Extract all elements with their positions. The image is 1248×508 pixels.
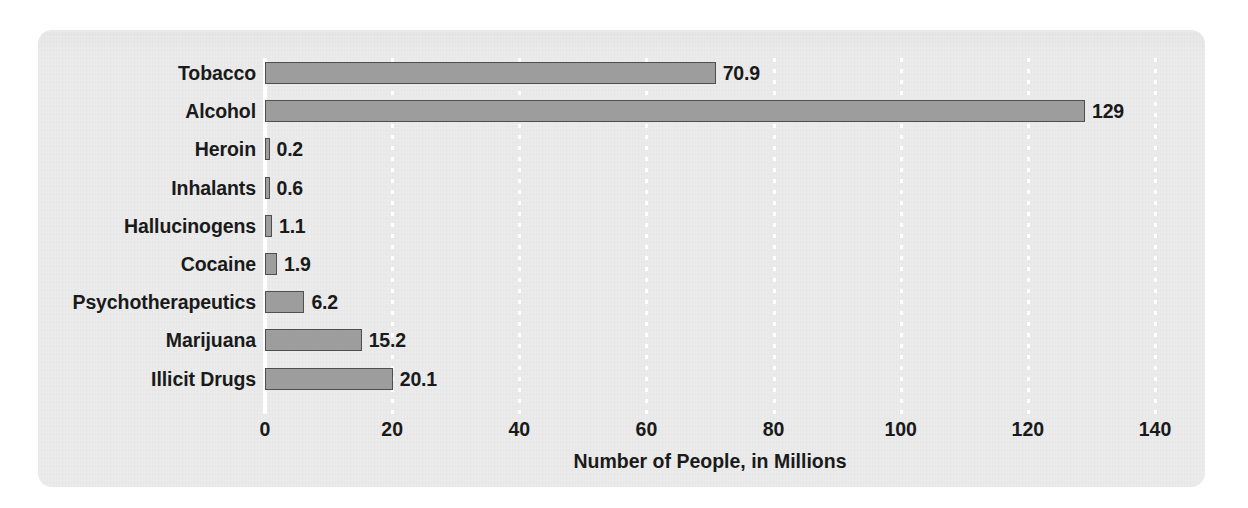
x-tick-label: 40 [508,418,530,441]
category-label: Illicit Drugs [151,367,256,390]
bar-row: Cocaine1.9 [265,253,1155,275]
x-tick-label: 140 [1139,418,1172,441]
bar-row: Hallucinogens1.1 [265,215,1155,237]
bar [265,100,1085,122]
bar-value-label: 1.9 [284,253,311,276]
category-label: Hallucinogens [124,214,256,237]
bar-value-label: 0.6 [277,176,304,199]
x-tick-label: 100 [884,418,917,441]
x-tick-label: 20 [381,418,403,441]
x-axis-ticks: 020406080100120140 [265,418,1155,446]
bar-value-label: 20.1 [400,367,437,390]
bar-value-label: 6.2 [311,291,338,314]
category-label: Tobacco [178,62,256,85]
x-tick-label: 0 [260,418,271,441]
x-tick-label: 60 [636,418,658,441]
bar [265,291,304,313]
bar [265,177,270,199]
chart-panel: Tobacco70.9Alcohol129Heroin0.2Inhalants0… [38,30,1205,487]
bar-row: Inhalants0.6 [265,177,1155,199]
bar [265,215,272,237]
bar-row: Heroin0.2 [265,138,1155,160]
category-label: Alcohol [185,100,256,123]
x-axis-title: Number of People, in Millions [265,450,1155,473]
x-tick-label: 120 [1012,418,1045,441]
bar-value-label: 0.2 [277,138,304,161]
bar-row: Illicit Drugs20.1 [265,368,1155,390]
bar [265,138,270,160]
bar-row: Alcohol129 [265,100,1155,122]
bar-row: Tobacco70.9 [265,62,1155,84]
bar-row: Psychotherapeutics6.2 [265,291,1155,313]
bar [265,368,393,390]
plot-area: Tobacco70.9Alcohol129Heroin0.2Inhalants0… [265,58,1155,410]
category-label: Psychotherapeutics [72,291,256,314]
bar [265,329,362,351]
x-tick-label: 80 [763,418,785,441]
category-label: Marijuana [166,329,256,352]
bar [265,253,277,275]
page-showthrough [38,32,1205,54]
bar [265,62,716,84]
bar-value-label: 129 [1092,100,1124,123]
category-label: Inhalants [171,176,256,199]
category-label: Heroin [195,138,256,161]
bar-value-label: 70.9 [723,62,760,85]
category-label: Cocaine [181,253,256,276]
bar-value-label: 15.2 [369,329,406,352]
bar-row: Marijuana15.2 [265,329,1155,351]
bar-value-label: 1.1 [279,214,306,237]
